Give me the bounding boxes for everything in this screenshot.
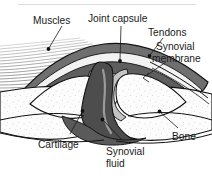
anatomy-figure: Muscles Joint capsule Tendons Synovial m…	[0, 0, 212, 180]
leader-dot-tendons	[148, 54, 152, 58]
label-tendons: Tendons	[148, 27, 187, 38]
leader-dot-muscles	[47, 47, 51, 51]
leader-dot-joint-capsule	[118, 59, 122, 63]
label-synovial-fluid-line1: Synovial	[106, 146, 145, 157]
label-bone: Bone	[172, 131, 196, 142]
label-synovial-fluid-line2: fluid	[106, 158, 125, 169]
label-synovial-membrane-line2: membrane	[152, 53, 201, 64]
joint-diagram-svg: Muscles Joint capsule Tendons Synovial m…	[0, 0, 212, 180]
label-synovial-membrane-line1: Synovial	[156, 41, 195, 52]
label-joint-capsule: Joint capsule	[88, 13, 148, 24]
leader-dot-bone	[158, 110, 162, 114]
leader-dot-synovial-fluid	[101, 118, 105, 122]
leader-dot-cartilage	[81, 109, 85, 113]
label-cartilage: Cartilage	[38, 139, 79, 150]
label-muscles: Muscles	[33, 15, 70, 26]
